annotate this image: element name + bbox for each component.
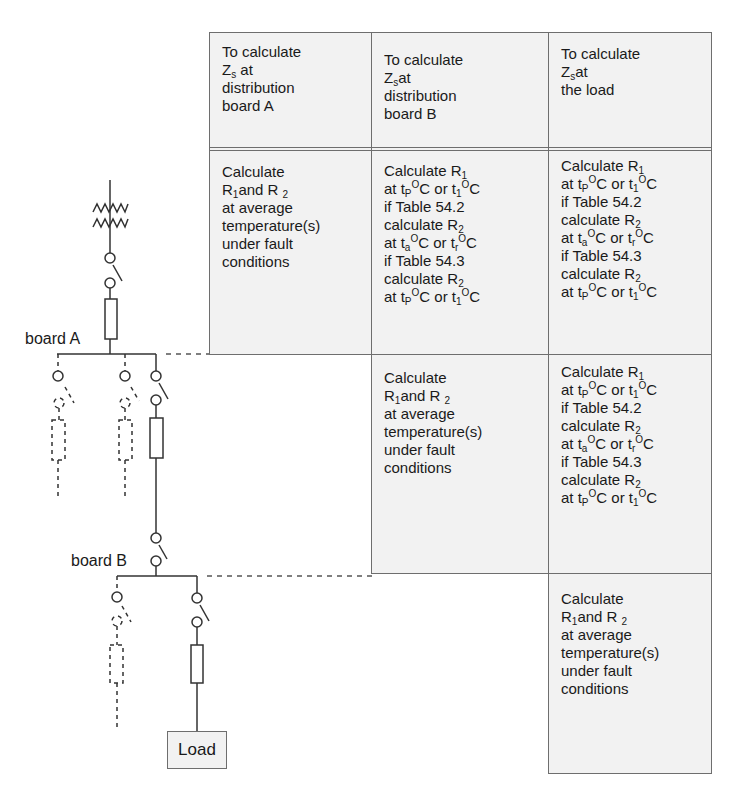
row-divider — [549, 354, 711, 355]
row-divider — [549, 573, 711, 574]
avg-calc-load: Calculate R1and R 2 at average temperatu… — [561, 590, 659, 698]
avg-calc-board-a: Calculate R1and R 2 at average temperatu… — [222, 163, 320, 271]
header-board-b: To calculate Zsat distribution board B — [384, 51, 463, 123]
table-calc-board-b: Calculate R1 at tPOC or t1OC if Table 54… — [384, 162, 480, 306]
header-board-a: To calculate Zs at distribution board A — [222, 43, 301, 115]
avg-calc-board-b: Calculate R1and R 2 at average temperatu… — [384, 369, 482, 477]
header-divider — [549, 147, 711, 151]
load-box: Load — [167, 731, 227, 769]
header-divider — [210, 147, 371, 151]
table-calc-load-row1: Calculate R1 at tPOC or t1OC if Table 54… — [561, 157, 657, 301]
column-board-a: To calculate Zs at distribution board A … — [209, 32, 372, 355]
row-divider — [372, 354, 548, 355]
board-b-label: board B — [71, 552, 127, 570]
column-load: To calculate Zsat the load Calculate R1 … — [548, 32, 712, 774]
table-calc-load-row2: Calculate R1 at tPOC or t1OC if Table 54… — [561, 363, 657, 507]
board-a-label: board A — [25, 330, 80, 348]
header-divider — [372, 147, 548, 151]
header-load: To calculate Zsat the load — [561, 45, 640, 99]
column-board-b: To calculate Zsat distribution board B C… — [371, 32, 549, 574]
